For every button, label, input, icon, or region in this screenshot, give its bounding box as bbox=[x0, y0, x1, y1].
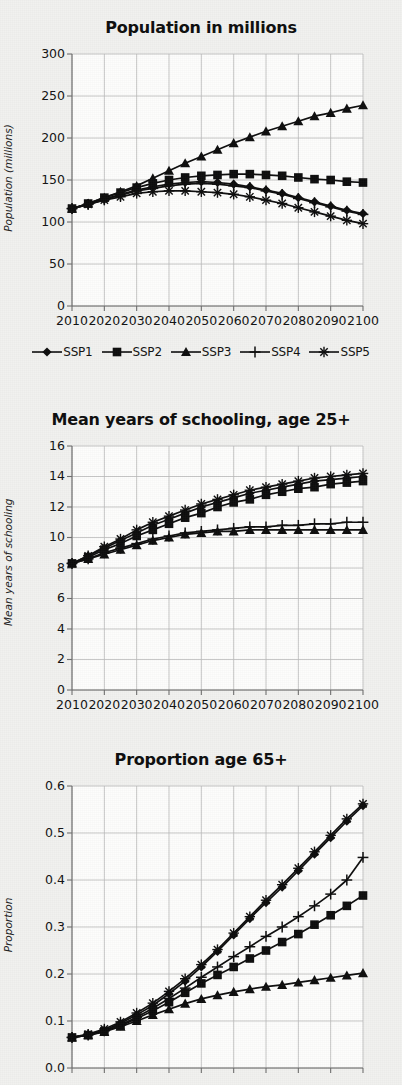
series-marker-square bbox=[262, 946, 271, 955]
x-axis-tick-label: 2060 bbox=[217, 315, 251, 328]
series-marker-square bbox=[229, 963, 238, 972]
y-axis-title: Population (millions) bbox=[2, 118, 14, 238]
x-axis-tick-label: 2090 bbox=[314, 315, 348, 328]
legend-item-ssp1[interactable]: SSP1 bbox=[32, 345, 92, 359]
y-axis-tick-label: 14 bbox=[49, 470, 65, 483]
y-axis-tick-label: 4 bbox=[57, 623, 65, 636]
y-axis-title: Proportion bbox=[2, 865, 14, 985]
series-marker-square bbox=[343, 177, 352, 186]
chart-title-population: Population in millions bbox=[0, 20, 402, 36]
legend-marker-triangle-icon bbox=[171, 345, 201, 359]
x-axis-tick-label: 2040 bbox=[152, 315, 186, 328]
series-marker-square bbox=[262, 171, 271, 180]
series-marker-asterisk bbox=[325, 471, 335, 481]
plot-area-schooling: 0246810121416Mean years of schooling2010… bbox=[0, 428, 402, 718]
series-marker-asterisk bbox=[115, 192, 125, 202]
series-marker-square bbox=[326, 176, 335, 185]
x-axis-tick-label: 2100 bbox=[346, 699, 380, 712]
chart-title-schooling: Mean years of schooling, age 25+ bbox=[0, 412, 402, 428]
series-marker-asterisk bbox=[83, 551, 93, 561]
series-marker-asterisk bbox=[99, 195, 109, 205]
series-marker-asterisk bbox=[277, 198, 287, 208]
series-marker-asterisk bbox=[164, 511, 174, 521]
series-marker-asterisk bbox=[196, 959, 206, 969]
x-axis-tick-label: 2100 bbox=[346, 315, 380, 328]
series-marker-square bbox=[310, 920, 319, 929]
series-marker-square bbox=[294, 930, 303, 939]
series-marker-asterisk bbox=[228, 928, 238, 938]
legend-label: SSP3 bbox=[202, 345, 231, 359]
y-axis-tick-label: 0.6 bbox=[45, 780, 65, 793]
series-marker-asterisk bbox=[67, 1032, 77, 1042]
x-axis-tick-label: 2010 bbox=[55, 315, 89, 328]
x-axis-tick-label: 2080 bbox=[281, 315, 315, 328]
legend-label: SSP5 bbox=[340, 345, 369, 359]
x-axis-tick-label: 2080 bbox=[281, 699, 315, 712]
series-marker-square bbox=[278, 172, 287, 181]
series-marker-asterisk bbox=[309, 473, 319, 483]
y-axis-tick-label: 200 bbox=[41, 132, 65, 145]
series-marker-asterisk bbox=[148, 187, 158, 197]
series-marker-asterisk bbox=[293, 476, 303, 486]
y-axis-title: Mean years of schooling bbox=[2, 506, 14, 626]
legend-marker-asterisk-icon bbox=[309, 345, 339, 359]
x-axis-tick-label: 2020 bbox=[87, 699, 121, 712]
chart-panel-schooling: Mean years of schooling, age 25+ 0246810… bbox=[0, 412, 402, 722]
series-marker-asterisk bbox=[358, 799, 368, 809]
series-marker-asterisk bbox=[342, 814, 352, 824]
series-marker-square bbox=[213, 171, 222, 180]
legend-item-ssp2[interactable]: SSP2 bbox=[102, 345, 162, 359]
chart-panel-proportion: Proportion age 65+ 0.00.10.20.30.40.50.6… bbox=[0, 752, 402, 1085]
series-marker-square bbox=[359, 891, 368, 900]
series-marker-asterisk bbox=[212, 187, 222, 197]
series-marker-asterisk bbox=[261, 895, 271, 905]
series-marker-asterisk bbox=[83, 1029, 93, 1039]
series-marker-asterisk bbox=[261, 482, 271, 492]
y-axis-tick-label: 100 bbox=[41, 216, 65, 229]
series-marker-asterisk bbox=[212, 944, 222, 954]
series-marker-asterisk bbox=[196, 187, 206, 197]
chart-legend: SSP1SSP2SSP3SSP4SSP5 bbox=[0, 345, 402, 359]
x-axis-tick-label: 2050 bbox=[184, 315, 218, 328]
legend-label: SSP2 bbox=[133, 345, 162, 359]
y-axis-tick-label: 12 bbox=[49, 501, 65, 514]
legend-marker-square-icon bbox=[102, 345, 132, 359]
series-marker-square bbox=[229, 170, 238, 179]
x-axis-tick-label: 2040 bbox=[152, 699, 186, 712]
series-marker-asterisk bbox=[180, 186, 190, 196]
chart-title-proportion: Proportion age 65+ bbox=[0, 752, 402, 768]
x-axis-tick-label: 2060 bbox=[217, 699, 251, 712]
legend-item-ssp3[interactable]: SSP3 bbox=[171, 345, 231, 359]
series-marker-asterisk bbox=[164, 186, 174, 196]
y-axis-tick-label: 250 bbox=[41, 90, 65, 103]
series-marker-asterisk bbox=[325, 211, 335, 221]
series-marker-asterisk bbox=[115, 1017, 125, 1027]
series-marker-asterisk bbox=[277, 479, 287, 489]
series-marker-asterisk bbox=[261, 195, 271, 205]
y-axis-tick-label: 300 bbox=[41, 48, 65, 61]
series-marker-square bbox=[278, 938, 287, 947]
series-marker-square bbox=[294, 173, 303, 182]
series-marker-asterisk bbox=[245, 192, 255, 202]
series-marker-asterisk bbox=[115, 534, 125, 544]
series-marker-asterisk bbox=[358, 468, 368, 478]
series-marker-asterisk bbox=[325, 830, 335, 840]
y-axis-tick-label: 0.1 bbox=[45, 1015, 65, 1028]
series-marker-asterisk bbox=[277, 880, 287, 890]
legend-item-ssp4[interactable]: SSP4 bbox=[240, 345, 300, 359]
y-axis-tick-label: 2 bbox=[57, 653, 65, 666]
series-marker-square bbox=[310, 175, 319, 184]
x-axis-tick-label: 2030 bbox=[120, 699, 154, 712]
legend-item-ssp5[interactable]: SSP5 bbox=[309, 345, 369, 359]
series-marker-asterisk bbox=[358, 218, 368, 228]
legend-label: SSP4 bbox=[271, 345, 300, 359]
plot-area-proportion: 0.00.10.20.30.40.50.6Proportion bbox=[0, 768, 402, 1078]
y-axis-tick-label: 0.4 bbox=[45, 874, 65, 887]
series-marker-asterisk bbox=[148, 998, 158, 1008]
series-marker-asterisk bbox=[164, 986, 174, 996]
series-marker-asterisk bbox=[131, 1008, 141, 1018]
series-marker-asterisk bbox=[131, 188, 141, 198]
series-marker-square bbox=[246, 170, 255, 179]
y-axis-tick-label: 0.2 bbox=[45, 968, 65, 981]
y-axis-tick-label: 150 bbox=[41, 174, 65, 187]
